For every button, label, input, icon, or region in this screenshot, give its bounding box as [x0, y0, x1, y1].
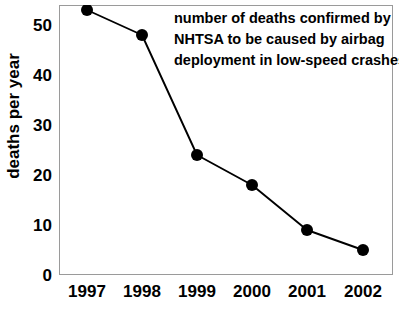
y-axis-tick-labels: 0 10 20 30 40 50: [0, 0, 52, 311]
data-point-2001: [301, 224, 313, 236]
y-tick-label-50: 50: [6, 17, 52, 34]
y-tick-label-0: 0: [6, 267, 52, 284]
data-point-2000: [246, 179, 258, 191]
data-point-1999: [191, 149, 203, 161]
y-tick-label-20: 20: [6, 167, 52, 184]
data-point-2002: [357, 244, 369, 256]
x-tick-label-2002: 2002: [328, 283, 398, 300]
chart-caption-line-1: number of deaths confirmed by: [174, 8, 392, 29]
chart-caption-line-2: NHTSA to be caused by airbag: [174, 29, 392, 50]
data-point-1997: [81, 5, 93, 16]
y-tick-label-10: 10: [6, 217, 52, 234]
chart-caption: number of deaths confirmed by NHTSA to b…: [174, 8, 392, 71]
line-chart: deaths per year 0 10 20 30 40 50: [0, 0, 399, 311]
y-tick-label-40: 40: [6, 67, 52, 84]
data-point-1998: [136, 29, 148, 41]
chart-caption-line-3: deployment in low-speed crashes: [174, 50, 392, 71]
y-tick-label-30: 30: [6, 117, 52, 134]
